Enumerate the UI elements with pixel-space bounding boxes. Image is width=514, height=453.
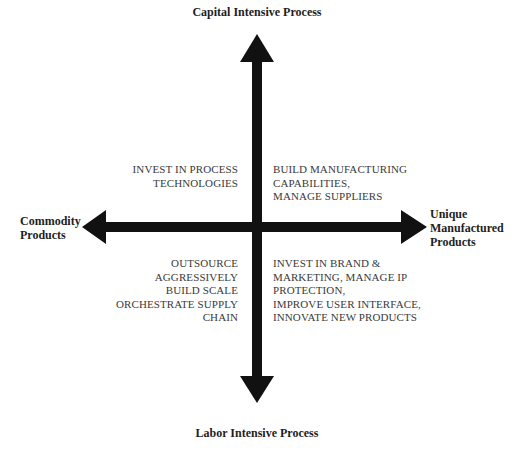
- quadrant-text-line: BUILD SCALE: [78, 284, 238, 298]
- vertical-axis-arrow: [240, 34, 274, 403]
- horizontal-arrow-shaft: [102, 222, 404, 232]
- quadrant-text-line: CAPABILITIES,: [273, 177, 473, 191]
- quadrant-text-line: MANAGE SUPPLIERS: [273, 190, 473, 204]
- quadrant-text-line: PROTECTION,: [273, 284, 493, 298]
- quadrant-text-line: BUILD MANUFACTURING: [273, 163, 473, 177]
- quadrant-text-line: ORCHESTRATE SUPPLY: [78, 298, 238, 312]
- left-axis-label-line: Products: [20, 228, 90, 242]
- right-axis-label-line: Products: [430, 235, 514, 249]
- quadrant-text-line: AGGRESSIVELY: [78, 271, 238, 285]
- quadrant-text-line: TECHNOLOGIES: [78, 177, 238, 191]
- arrow-up-icon: [240, 34, 274, 62]
- quadrant-text-line: INNOVATE NEW PRODUCTS: [273, 311, 493, 325]
- quadrant-top-left: INVEST IN PROCESS TECHNOLOGIES: [78, 163, 238, 190]
- quadrant-text-line: CHAIN: [78, 311, 238, 325]
- quadrant-bottom-left: OUTSOURCE AGGRESSIVELY BUILD SCALE ORCHE…: [78, 257, 238, 325]
- right-axis-label-line: Unique: [430, 207, 514, 221]
- quadrant-bottom-right: INVEST IN BRAND & MARKETING, MANAGE IP P…: [273, 257, 493, 325]
- arrow-right-icon: [401, 210, 427, 244]
- quadrant-top-right: BUILD MANUFACTURING CAPABILITIES, MANAGE…: [273, 163, 473, 204]
- quadrant-text-line: INVEST IN PROCESS: [78, 163, 238, 177]
- arrow-down-icon: [240, 376, 274, 403]
- right-axis-label-line: Manufactured: [430, 221, 514, 235]
- left-axis-label-line: Commodity: [20, 214, 90, 228]
- top-axis-label: Capital Intensive Process: [0, 5, 514, 19]
- bottom-axis-label: Labor Intensive Process: [0, 426, 514, 440]
- left-axis-label: Commodity Products: [20, 214, 90, 242]
- right-axis-label: Unique Manufactured Products: [430, 207, 514, 249]
- quadrant-text-line: MARKETING, MANAGE IP: [273, 271, 493, 285]
- quadrant-text-line: OUTSOURCE: [78, 257, 238, 271]
- quadrant-text-line: IMPROVE USER INTERFACE,: [273, 298, 493, 312]
- quadrant-text-line: INVEST IN BRAND &: [273, 257, 493, 271]
- vertical-arrow-shaft: [252, 58, 262, 380]
